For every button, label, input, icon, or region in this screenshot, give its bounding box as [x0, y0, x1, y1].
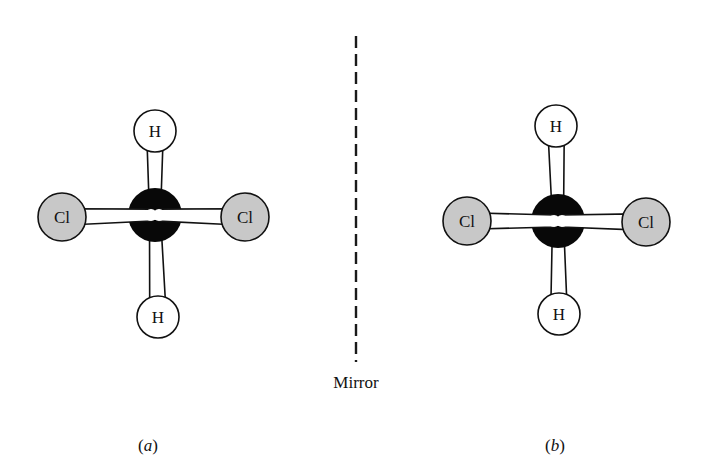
atom-label: Cl — [237, 208, 253, 227]
atom-label: Cl — [459, 212, 475, 231]
atom-label: Cl — [54, 208, 70, 227]
atom-label: Cl — [638, 213, 654, 232]
caption-a-close-paren: ) — [152, 436, 158, 455]
molecule-a: HHClCl — [38, 110, 269, 338]
chlorine-atom: Cl — [221, 193, 269, 241]
hydrogen-atom: H — [137, 296, 179, 338]
caption-a: (a) — [138, 436, 158, 455]
caption-b-letter: b — [551, 436, 560, 455]
mirror-label: Mirror — [333, 373, 379, 392]
atom-label: H — [152, 308, 164, 327]
hydrogen-atom: H — [535, 105, 577, 147]
chlorine-atom: Cl — [622, 198, 670, 246]
bond-c-cl-rounded-end — [153, 209, 165, 221]
chlorine-atom: Cl — [443, 197, 491, 245]
hydrogen-atom: H — [538, 293, 580, 335]
caption-a-letter: a — [144, 436, 153, 455]
atom-label: H — [149, 122, 161, 141]
atom-label: H — [550, 117, 562, 136]
caption-b: (b) — [545, 436, 565, 455]
mirror-image-molecules-figure: Mirror HHClCl HHClCl (a) (b) — [0, 0, 710, 461]
caption-b-close-paren: ) — [559, 436, 565, 455]
atom-label: H — [553, 305, 565, 324]
hydrogen-atom: H — [134, 110, 176, 152]
chlorine-atom: Cl — [38, 193, 86, 241]
bond-c-cl-rounded-end — [556, 215, 568, 227]
molecule-b: HHClCl — [443, 105, 670, 335]
